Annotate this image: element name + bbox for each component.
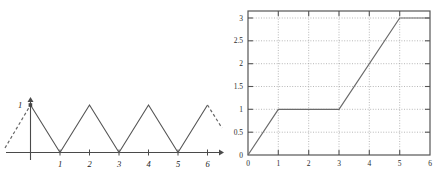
x-tick-label-0: 0 bbox=[246, 159, 250, 168]
wave-continuation-right bbox=[208, 105, 223, 128]
y-tick-label-2.5: 2.5 bbox=[234, 36, 244, 45]
integral-panel: 0 0.5 1 1.5 2 2.5 3 0 1 2 3 4 5 6 bbox=[224, 0, 448, 178]
grid-vertical bbox=[278, 11, 399, 155]
wave-continuation-left bbox=[5, 105, 31, 148]
x-tick-label-3: 3 bbox=[116, 159, 121, 169]
triangular-wave-line bbox=[31, 105, 208, 153]
x-tick-label-6: 6 bbox=[205, 159, 210, 169]
y-tick-label-1: 1 bbox=[239, 105, 243, 114]
y-axis-arrow-icon bbox=[28, 97, 34, 102]
integral-svg: 0 0.5 1 1.5 2 2.5 3 0 1 2 3 4 5 6 bbox=[224, 0, 448, 178]
x-tick-label-2: 2 bbox=[87, 159, 92, 169]
x-tick-label-1: 1 bbox=[58, 159, 62, 169]
x-axis-group bbox=[6, 150, 224, 156]
x-tick-label-5: 5 bbox=[176, 159, 180, 169]
x-tick-label-3: 3 bbox=[337, 159, 341, 168]
triangular-wave-panel: 1 1 2 3 4 5 6 bbox=[0, 0, 224, 178]
x-tick-label-6: 6 bbox=[428, 159, 432, 168]
x-tick-label-5: 5 bbox=[398, 159, 402, 168]
figure-root: 1 1 2 3 4 5 6 bbox=[0, 0, 448, 178]
x-tick-label-1: 1 bbox=[276, 159, 280, 168]
x-tick-label-2: 2 bbox=[307, 159, 311, 168]
y-tick-label-1: 1 bbox=[18, 100, 22, 110]
y-tick-label-2: 2 bbox=[239, 59, 243, 68]
triangular-wave-svg: 1 1 2 3 4 5 6 bbox=[0, 0, 224, 178]
y-tick-label-0.5: 0.5 bbox=[234, 128, 244, 137]
y-tick-label-0: 0 bbox=[239, 151, 243, 160]
peak-marker-dot bbox=[29, 103, 33, 107]
y-tick-label-3: 3 bbox=[239, 14, 243, 23]
x-tick-label-4: 4 bbox=[146, 159, 151, 169]
y-tick-label-1.5: 1.5 bbox=[234, 82, 244, 91]
x-tick-label-4: 4 bbox=[367, 159, 371, 168]
